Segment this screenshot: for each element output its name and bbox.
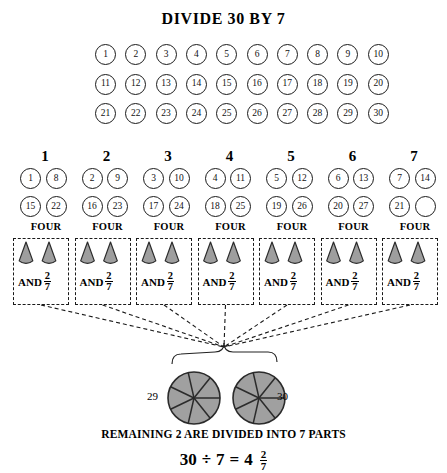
equation-fraction-numerator: 2 — [260, 449, 268, 461]
four-label-group-1: FOUR — [16, 221, 76, 232]
and-fraction-denominator-group-5: 7 — [290, 282, 297, 292]
equation-equals: = — [230, 450, 240, 470]
and-fraction-group-3: AND27 — [141, 271, 174, 293]
and-fraction-stack-group-5: 27 — [290, 271, 297, 293]
group-2-circle-9: 9 — [107, 168, 128, 189]
group-header-6: 6 — [325, 148, 381, 165]
four-label-group-2: FOUR — [78, 221, 138, 232]
group-header-2: 2 — [79, 148, 135, 165]
group-header-3: 3 — [140, 148, 196, 165]
group-2-circle-16: 16 — [82, 196, 103, 217]
and-fraction-group-2: AND27 — [80, 271, 113, 293]
group-1-circle-8: 8 — [46, 168, 67, 189]
group-6-circle-27: 27 — [353, 196, 374, 217]
group-columns: 1181522FOURAND272291623FOURAND2733101724… — [0, 0, 447, 473]
group-2-circle-23: 23 — [107, 196, 128, 217]
group-6-circle-20: 20 — [328, 196, 349, 217]
and-fraction-denominator-group-3: 7 — [167, 282, 174, 292]
and-fraction-denominator-group-2: 7 — [105, 282, 112, 292]
and-fraction-stack-group-6: 27 — [351, 271, 358, 293]
and-fraction-stack-group-2: 27 — [105, 271, 112, 293]
and-fraction-stack-group-1: 27 — [44, 271, 51, 293]
group-3-circle-24: 24 — [169, 196, 190, 217]
and-word-group-2: AND — [80, 276, 104, 288]
remaining-text: REMAINING 2 ARE DIVIDED INTO 7 PARTS — [0, 428, 447, 440]
and-word-group-4: AND — [203, 276, 227, 288]
and-word-group-3: AND — [141, 276, 165, 288]
worksheet-canvas: DIVIDE 30 BY 7 1234567891011121314151617… — [0, 0, 447, 473]
four-label-group-5: FOUR — [262, 221, 322, 232]
group-5-circle-26: 26 — [292, 196, 313, 217]
and-fraction-group-4: AND27 — [203, 271, 236, 293]
group-header-7: 7 — [386, 148, 442, 165]
and-fraction-denominator-group-4: 7 — [228, 282, 235, 292]
and-fraction-group-7: AND27 — [387, 271, 420, 293]
and-word-group-1: AND — [18, 276, 42, 288]
and-fraction-denominator-group-1: 7 — [44, 282, 51, 292]
group-header-1: 1 — [17, 148, 73, 165]
equation-quotient: 4 — [244, 450, 253, 470]
equation-dividend: 30 — [180, 450, 197, 470]
four-label-group-6: FOUR — [324, 221, 384, 232]
group-4-circle-4: 4 — [205, 168, 226, 189]
final-equation: 30 ÷ 7 = 4 2 7 — [0, 449, 447, 472]
group-header-5: 5 — [263, 148, 319, 165]
pie-label-right: 30 — [277, 390, 288, 402]
group-3-circle-17: 17 — [143, 196, 164, 217]
equation-fraction-denominator: 7 — [260, 461, 268, 472]
four-label-group-7: FOUR — [385, 221, 445, 232]
and-word-group-5: AND — [264, 276, 288, 288]
group-header-4: 4 — [202, 148, 258, 165]
group-1-circle-15: 15 — [20, 196, 41, 217]
group-6-circle-6: 6 — [328, 168, 349, 189]
group-1-circle-1: 1 — [20, 168, 41, 189]
group-5-circle-19: 19 — [266, 196, 287, 217]
four-label-group-3: FOUR — [139, 221, 199, 232]
and-word-group-6: AND — [326, 276, 350, 288]
group-2-circle-2: 2 — [82, 168, 103, 189]
and-fraction-stack-group-4: 27 — [228, 271, 235, 293]
group-5-circle-5: 5 — [266, 168, 287, 189]
group-3-circle-3: 3 — [143, 168, 164, 189]
group-7-circle-14: 14 — [415, 168, 436, 189]
group-7-circle-21: 21 — [389, 196, 410, 217]
group-6-circle-13: 13 — [353, 168, 374, 189]
group-4-circle-18: 18 — [205, 196, 226, 217]
equation-divide-sign: ÷ — [202, 450, 211, 470]
and-fraction-denominator-group-7: 7 — [413, 282, 420, 292]
group-4-circle-11: 11 — [230, 168, 251, 189]
and-fraction-stack-group-3: 27 — [167, 271, 174, 293]
and-fraction-stack-group-7: 27 — [413, 271, 420, 293]
and-fraction-group-1: AND27 — [18, 271, 51, 293]
equation-fraction: 2 7 — [260, 449, 268, 472]
four-label-group-4: FOUR — [201, 221, 261, 232]
and-word-group-7: AND — [387, 276, 411, 288]
group-7-circle-7: 7 — [389, 168, 410, 189]
group-7-empty-circle — [415, 196, 436, 217]
pie-label-left: 29 — [147, 390, 158, 402]
and-fraction-group-5: AND27 — [264, 271, 297, 293]
group-3-circle-10: 10 — [169, 168, 190, 189]
group-1-circle-22: 22 — [46, 196, 67, 217]
group-4-circle-25: 25 — [230, 196, 251, 217]
group-5-circle-12: 12 — [292, 168, 313, 189]
and-fraction-denominator-group-6: 7 — [351, 282, 358, 292]
equation-divisor: 7 — [216, 450, 225, 470]
and-fraction-group-6: AND27 — [326, 271, 359, 293]
